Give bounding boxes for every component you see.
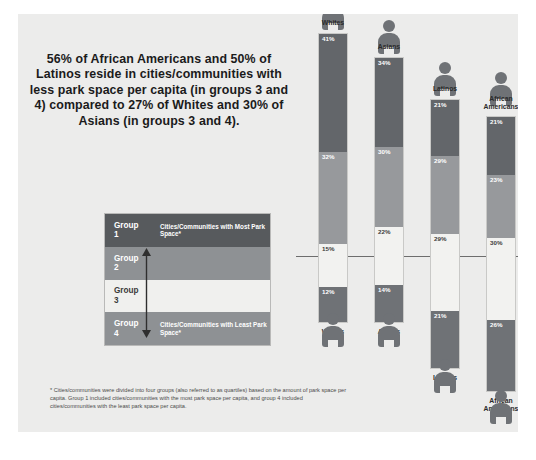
bar-segment: 41% — [319, 34, 347, 152]
chart-column: Latinos21%29%29%21%Latinos — [430, 62, 460, 393]
legend-label-1: Group — [114, 221, 139, 230]
bar-segment-value: 14% — [378, 286, 390, 293]
legend-label-4: Group — [114, 319, 139, 328]
bar-segment-value: 30% — [378, 148, 390, 155]
bar-segment: 23% — [487, 175, 515, 238]
legend-number-2: 2 — [114, 263, 160, 272]
chart-column: African Americans21%23%30%26%African Ame… — [486, 72, 516, 424]
chart-column: Asians34%30%22%14%Asians — [374, 20, 404, 347]
stacked-bar-chart: Whites41%32%15%12%WhitesAsians34%30%22%1… — [296, 14, 518, 432]
person-icon-bottom — [374, 313, 404, 347]
person-icon-bottom — [318, 313, 348, 347]
legend-desc-4: Cities/Communities with Least Park Space… — [160, 321, 270, 336]
bar-segment: 30% — [375, 147, 403, 226]
bar-segment: 34% — [375, 58, 403, 148]
bar-segment-value: 30% — [490, 239, 502, 246]
column-label-top: Latinos — [420, 85, 470, 93]
vertical-double-arrow-icon — [141, 248, 152, 338]
person-icon-bottom — [430, 359, 460, 393]
bar-segment-value: 21% — [434, 101, 446, 108]
legend-desc-1: Cities/Communities with Most Park Space* — [160, 223, 270, 238]
legend-row-group-4: Group 4 Cities/Communities with Least Pa… — [105, 312, 270, 345]
stacked-bar: 41%32%15%12% — [318, 33, 348, 323]
stacked-bar: 21%29%29%21% — [430, 99, 460, 369]
bar-segment-value: 32% — [322, 153, 334, 160]
bar-segment-value: 41% — [322, 35, 334, 42]
legend-group-name-1: Group 1 — [114, 221, 160, 240]
bar-segment-value: 21% — [434, 312, 446, 319]
bar-segment: 29% — [431, 156, 459, 234]
bar-segment-value: 29% — [434, 235, 446, 242]
column-label-top: Whites — [308, 19, 358, 27]
column-label-top: African Americans — [476, 95, 518, 110]
bar-segment-value: 23% — [490, 176, 502, 183]
bar-segment-value: 34% — [378, 59, 390, 66]
bar-segment-value: 26% — [490, 321, 502, 328]
legend-group-name-2: Group 2 — [114, 254, 160, 273]
bar-segment: 26% — [487, 320, 515, 391]
chart-column: Whites41%32%15%12%Whites — [318, 14, 348, 347]
infographic-poster: 56% of African Americans and 50% of Lati… — [18, 14, 518, 432]
bar-segment-value: 12% — [322, 288, 334, 295]
legend-row-group-3: Group 3 — [105, 280, 270, 313]
bar-segment-value: 29% — [434, 157, 446, 164]
bar-segment-value: 22% — [378, 228, 390, 235]
stacked-bar: 21%23%30%26% — [486, 116, 516, 392]
legend-label-3: Group — [114, 286, 139, 295]
bar-segment: 21% — [487, 117, 515, 175]
legend-number-4: 4 — [114, 329, 160, 338]
legend-number-1: 1 — [114, 230, 160, 239]
bar-segment-value: 21% — [490, 118, 502, 125]
legend-label-2: Group — [114, 254, 139, 263]
legend-group-name-4: Group 4 — [114, 319, 160, 338]
bar-segment: 22% — [375, 227, 403, 285]
column-label-top: Asians — [364, 43, 414, 51]
legend-row-group-2: Group 2 — [105, 247, 270, 280]
legend-number-3: 3 — [114, 296, 160, 305]
bar-segment-value: 15% — [322, 245, 334, 252]
group-legend-box: Group 1 Cities/Communities with Most Par… — [104, 213, 271, 346]
bar-segment: 30% — [487, 238, 515, 320]
bar-segment: 21% — [431, 100, 459, 156]
footnote-text: * Cities/communities were divided into f… — [50, 386, 350, 410]
bar-segment: 15% — [319, 244, 347, 287]
legend-row-group-1: Group 1 Cities/Communities with Most Par… — [105, 214, 270, 247]
person-icon-bottom — [486, 390, 516, 424]
stacked-bar: 34%30%22%14% — [374, 57, 404, 323]
bar-segment: 29% — [431, 234, 459, 312]
headline-statement: 56% of African Americans and 50% of Lati… — [28, 52, 290, 129]
legend-group-name-3: Group 3 — [114, 286, 160, 305]
bar-segment: 32% — [319, 152, 347, 244]
